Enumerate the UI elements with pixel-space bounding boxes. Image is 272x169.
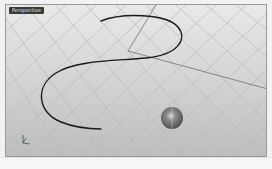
sphere-object[interactable] (161, 107, 183, 129)
grid-lines-b (6, 5, 267, 157)
cad-application: Perspective (0, 0, 272, 169)
perspective-viewport[interactable]: Perspective (5, 4, 267, 157)
status-bar (0, 157, 272, 169)
world-axis-lines (128, 5, 267, 89)
world-axis-icon (18, 133, 32, 147)
viewport-scene[interactable] (6, 5, 267, 157)
viewport-title-tab[interactable]: Perspective (9, 7, 44, 14)
